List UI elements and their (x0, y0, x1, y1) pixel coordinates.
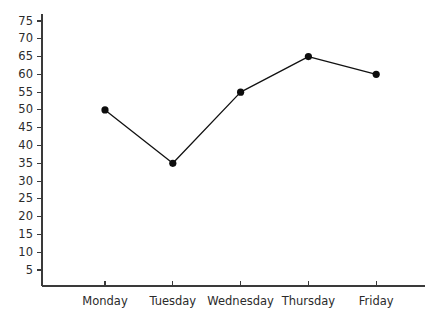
y-axis-tick-labels: 51015202530354045505560657075 (18, 14, 33, 277)
y-tick-label: 65 (18, 49, 33, 63)
y-tick-label: 20 (18, 209, 33, 223)
x-tick-label: Tuesday (148, 294, 196, 308)
series-line-path (105, 57, 376, 164)
y-tick-label: 15 (18, 227, 33, 241)
y-axis-tick-marks (37, 21, 42, 270)
x-tick-label: Friday (359, 294, 394, 308)
series-data-markers (101, 53, 379, 167)
x-tick-label: Monday (82, 294, 128, 308)
data-point-tuesday (169, 160, 176, 167)
y-tick-label: 55 (18, 85, 33, 99)
data-point-thursday (305, 53, 312, 60)
data-point-monday (101, 106, 108, 113)
chart-canvas: 51015202530354045505560657075 MondayTues… (0, 0, 435, 327)
y-tick-label: 40 (18, 138, 33, 152)
y-tick-label: 70 (18, 31, 33, 45)
y-tick-label: 45 (18, 120, 33, 134)
y-tick-label: 5 (26, 263, 33, 277)
x-tick-label: Wednesday (207, 294, 274, 308)
y-tick-label: 50 (18, 102, 33, 116)
x-tick-label: Thursday (281, 294, 336, 308)
y-tick-label: 75 (18, 14, 33, 28)
y-tick-label: 10 (18, 245, 33, 259)
data-point-wednesday (237, 89, 244, 96)
y-tick-label: 35 (18, 156, 33, 170)
x-axis-tick-labels: MondayTuesdayWednesdayThursdayFriday (82, 294, 394, 308)
y-tick-label: 25 (18, 191, 33, 205)
line-chart: 51015202530354045505560657075 MondayTues… (0, 0, 435, 327)
data-point-friday (373, 71, 380, 78)
y-tick-label: 30 (18, 174, 33, 188)
y-tick-label: 60 (18, 67, 33, 81)
